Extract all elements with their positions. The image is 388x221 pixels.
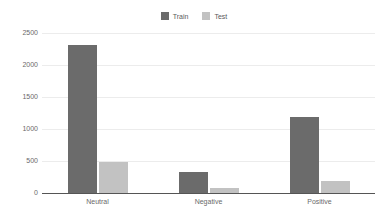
x-axis-tick-label-positive: Positive	[280, 197, 360, 206]
y-axis-tick-label: 1500	[4, 93, 38, 101]
legend-swatch-test-icon	[202, 12, 210, 20]
x-axis-tick-label-negative: Negative	[169, 197, 249, 206]
y-axis-tick-label: 2500	[4, 29, 38, 37]
x-axis-tick-label-neutral: Neutral	[58, 197, 138, 206]
chart-legend: Train Test	[0, 10, 388, 22]
bar-group-negative	[179, 33, 239, 193]
y-axis-tick-label: 2000	[4, 61, 38, 69]
y-axis-tick-label: 0	[4, 189, 38, 197]
bar-negative-train[interactable]	[179, 172, 208, 193]
bar-chart: Train Test 05001000150020002500 NeutralN…	[0, 0, 388, 221]
bar-positive-test[interactable]	[321, 181, 350, 193]
legend-item-train[interactable]: Train	[161, 10, 189, 22]
legend-label-train: Train	[173, 12, 189, 21]
bar-positive-train[interactable]	[290, 117, 319, 193]
legend-item-test[interactable]: Test	[202, 10, 227, 22]
legend-label-test: Test	[214, 12, 227, 21]
plot-area	[42, 33, 375, 193]
bar-group-neutral	[68, 33, 128, 193]
bar-neutral-train[interactable]	[68, 45, 97, 193]
legend-swatch-train-icon	[161, 12, 169, 20]
x-axis-line	[42, 193, 375, 194]
bar-group-positive	[290, 33, 350, 193]
bar-neutral-test[interactable]	[99, 162, 128, 193]
y-axis-tick-label: 500	[4, 157, 38, 165]
y-axis: 05001000150020002500	[0, 0, 38, 221]
y-axis-tick-label: 1000	[4, 125, 38, 133]
